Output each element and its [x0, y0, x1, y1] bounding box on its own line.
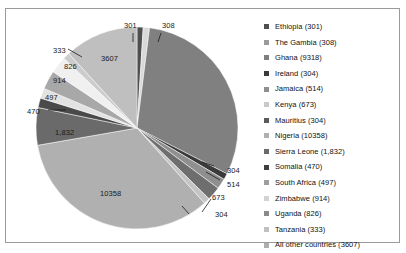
legend-item[interactable]: Jamaica (514) [264, 81, 400, 97]
legend-item-label: All other countries (3607) [275, 241, 360, 249]
pie-data-label: 673 [212, 194, 225, 202]
legend-item[interactable]: Ireland (304) [264, 66, 400, 82]
legend-item[interactable]: Uganda (826) [264, 206, 400, 222]
legend-item-label: Uganda (826) [275, 210, 321, 218]
legend-swatch-icon [264, 196, 269, 201]
legend-swatch-icon [264, 180, 269, 185]
legend-swatch-icon [264, 227, 269, 232]
legend-swatch-icon [264, 243, 269, 248]
legend-item[interactable]: Kenya (673) [264, 97, 400, 113]
pie-data-label: 497 [45, 94, 58, 102]
legend-swatch-icon [264, 118, 269, 123]
pie-data-label: 10358 [100, 190, 121, 198]
legend-item-label: Ghana (9318) [275, 54, 322, 62]
pie-data-label: 308 [162, 22, 175, 30]
legend-item[interactable]: Nigeria (10358) [264, 128, 400, 144]
legend-item[interactable]: Somalia (470) [264, 159, 400, 175]
legend-item[interactable]: Zimbabwe (914) [264, 191, 400, 207]
pie-data-label: 470 [27, 108, 40, 116]
chart-legend: Ethiopia (301)The Gambia (308)Ghana (931… [264, 19, 400, 253]
chart-frame: 30130836073338269144974701,8321035830467… [5, 8, 400, 243]
legend-item[interactable]: The Gambia (308) [264, 35, 400, 51]
legend-item[interactable]: Mauritius (304) [264, 113, 400, 129]
pie-data-label: 1,832 [55, 129, 74, 137]
legend-swatch-icon [264, 211, 269, 216]
pie-data-label: 826 [64, 63, 77, 71]
legend-swatch-icon [264, 133, 269, 138]
legend-item[interactable]: Ghana (9318) [264, 50, 400, 66]
legend-item[interactable]: South Africa (497) [264, 175, 400, 191]
legend-swatch-icon [264, 55, 269, 60]
legend-item[interactable]: Ethiopia (301) [264, 19, 400, 35]
legend-item-label: Kenya (673) [275, 101, 316, 109]
legend-swatch-icon [264, 40, 269, 45]
legend-item-label: South Africa (497) [275, 179, 336, 187]
legend-item-label: Ireland (304) [275, 70, 318, 78]
pie-data-label: 514 [227, 181, 240, 189]
legend-item-label: Mauritius (304) [275, 117, 326, 125]
legend-item-label: Sierra Leone (1,832) [275, 148, 345, 156]
pie-data-label: 304 [227, 167, 240, 175]
legend-swatch-icon [264, 165, 269, 170]
legend-item-label: Tanzania (333) [275, 226, 325, 234]
legend-item[interactable]: All other countries (3607) [264, 237, 400, 253]
legend-swatch-icon [264, 149, 269, 154]
legend-item-label: Somalia (470) [275, 163, 322, 171]
pie-chart-plot-area: 30130836073338269144974701,8321035830467… [6, 9, 268, 242]
legend-item-label: Jamaica (514) [275, 85, 323, 93]
pie-data-label: 914 [53, 77, 66, 85]
pie-data-label: 3607 [101, 55, 118, 63]
legend-swatch-icon [264, 24, 269, 29]
legend-item-label: Ethiopia (301) [275, 23, 322, 31]
legend-swatch-icon [264, 102, 269, 107]
pie-data-label: 333 [53, 47, 66, 55]
pie-data-label: 301 [124, 22, 137, 30]
legend-swatch-icon [264, 87, 269, 92]
legend-item-label: Nigeria (10358) [275, 132, 327, 140]
legend-item[interactable]: Sierra Leone (1,832) [264, 144, 400, 160]
legend-item[interactable]: Tanzania (333) [264, 222, 400, 238]
legend-item-label: The Gambia (308) [275, 39, 337, 47]
legend-swatch-icon [264, 71, 269, 76]
pie-chart-svg [6, 9, 268, 242]
pie-data-label: 304 [215, 211, 228, 219]
legend-item-label: Zimbabwe (914) [275, 195, 330, 203]
